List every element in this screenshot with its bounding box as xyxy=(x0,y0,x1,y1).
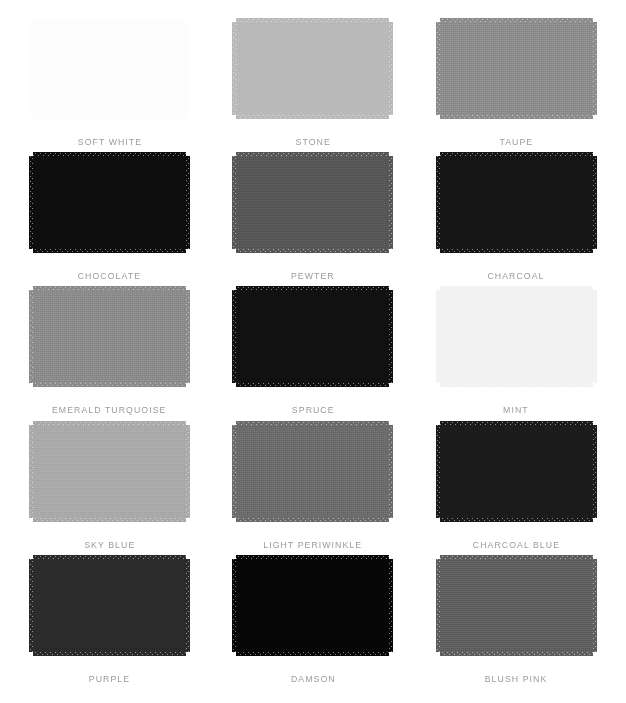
swatch-cell[interactable]: PEWTER xyxy=(211,152,414,286)
swatch-color-chip xyxy=(436,421,597,522)
swatch-cell[interactable]: SKY BLUE xyxy=(8,421,211,555)
swatch-label: TAUPE xyxy=(499,136,533,147)
pinked-edge-zz-top xyxy=(33,286,186,291)
pinked-edge-body xyxy=(440,156,593,249)
swatch-cell[interactable]: BLUSH PINK xyxy=(415,555,618,689)
swatch-cell[interactable]: SOFT WHITE xyxy=(8,18,211,152)
swatch-color-chip xyxy=(436,18,597,119)
pinked-edge-zz-right xyxy=(185,22,190,115)
fabric-swatch[interactable] xyxy=(29,152,190,253)
color-swatch-grid: SOFT WHITESTONETAUPECHOCOLATEPEWTERCHARC… xyxy=(0,0,626,703)
pinked-edge-zz-left xyxy=(436,290,441,383)
swatch-cell[interactable]: CHARCOAL BLUE xyxy=(415,421,618,555)
pinked-edge-body xyxy=(440,290,593,383)
fabric-swatch[interactable] xyxy=(232,152,393,253)
pinked-edge-zz-left xyxy=(29,425,34,518)
pinked-edge-zz-top xyxy=(236,555,389,560)
fabric-swatch[interactable] xyxy=(29,286,190,387)
pinked-edge-zz-left xyxy=(232,290,237,383)
fabric-swatch[interactable] xyxy=(232,18,393,119)
swatch-color-chip xyxy=(436,286,597,387)
pinked-edge-zz-bot xyxy=(440,248,593,253)
swatch-color-chip xyxy=(29,18,190,119)
swatch-label: SKY BLUE xyxy=(84,539,135,550)
pinked-edge-zz-left xyxy=(232,22,237,115)
pinked-edge-zz-right xyxy=(388,22,393,115)
swatch-cell[interactable]: TAUPE xyxy=(415,18,618,152)
pinked-edge-zz-bot xyxy=(33,248,186,253)
pinked-edge-zz-left xyxy=(232,156,237,249)
pinked-edge-zz-left xyxy=(232,425,237,518)
pinked-edge-zz-right xyxy=(185,290,190,383)
swatch-color-chip xyxy=(232,18,393,119)
fabric-swatch[interactable] xyxy=(29,555,190,656)
swatch-label: DAMSON xyxy=(291,673,336,684)
pinked-edge-body xyxy=(236,22,389,115)
swatch-label: SOFT WHITE xyxy=(77,136,141,147)
pinked-edge-zz-bot xyxy=(440,382,593,387)
swatch-cell[interactable]: SPRUCE xyxy=(211,286,414,420)
swatch-color-chip xyxy=(29,421,190,522)
pinked-edge-zz-top xyxy=(440,286,593,291)
swatch-cell[interactable]: EMERALD TURQUOISE xyxy=(8,286,211,420)
pinked-edge-body xyxy=(33,290,186,383)
pinked-edge-zz-top xyxy=(236,152,389,157)
swatch-color-chip xyxy=(436,555,597,656)
pinked-edge-zz-bot xyxy=(236,517,389,522)
fabric-swatch[interactable] xyxy=(436,286,597,387)
fabric-swatch[interactable] xyxy=(436,555,597,656)
pinked-edge-zz-bot xyxy=(440,517,593,522)
pinked-edge-zz-top xyxy=(236,286,389,291)
swatch-label: PEWTER xyxy=(291,270,335,281)
pinked-edge-zz-top xyxy=(440,152,593,157)
swatch-color-chip xyxy=(232,421,393,522)
fabric-swatch[interactable] xyxy=(232,555,393,656)
pinked-edge-zz-bot xyxy=(33,517,186,522)
pinked-edge-zz-right xyxy=(185,559,190,652)
fabric-swatch[interactable] xyxy=(436,152,597,253)
swatch-cell[interactable]: LIGHT PERIWINKLE xyxy=(211,421,414,555)
swatch-cell[interactable]: DAMSON xyxy=(211,555,414,689)
pinked-edge-zz-top xyxy=(440,555,593,560)
pinked-edge-zz-left xyxy=(436,559,441,652)
swatch-label: CHARCOAL xyxy=(488,270,545,281)
fabric-swatch[interactable] xyxy=(232,286,393,387)
pinked-edge-body xyxy=(33,22,186,115)
pinked-edge-zz-bot xyxy=(33,382,186,387)
pinked-edge-body xyxy=(440,425,593,518)
pinked-edge-zz-left xyxy=(232,559,237,652)
swatch-label: SPRUCE xyxy=(292,404,335,415)
pinked-edge-zz-top xyxy=(33,18,186,23)
swatch-cell[interactable]: CHOCOLATE xyxy=(8,152,211,286)
pinked-edge-zz-right xyxy=(592,559,597,652)
swatch-label: MINT xyxy=(504,404,530,415)
swatch-cell[interactable]: MINT xyxy=(415,286,618,420)
pinked-edge-zz-bot xyxy=(236,382,389,387)
swatch-cell[interactable]: PURPLE xyxy=(8,555,211,689)
pinked-edge-zz-top xyxy=(440,421,593,426)
pinked-edge-zz-top xyxy=(236,18,389,23)
pinked-edge-zz-bot xyxy=(236,248,389,253)
fabric-swatch[interactable] xyxy=(436,421,597,522)
swatch-cell[interactable]: STONE xyxy=(211,18,414,152)
swatch-label: CHOCOLATE xyxy=(78,270,141,281)
pinked-edge-zz-bot xyxy=(440,651,593,656)
pinked-edge-zz-left xyxy=(29,22,34,115)
swatch-label: CHARCOAL BLUE xyxy=(473,539,560,550)
pinked-edge-zz-right xyxy=(592,425,597,518)
fabric-swatch[interactable] xyxy=(29,18,190,119)
pinked-edge-body xyxy=(236,559,389,652)
swatch-label: STONE xyxy=(295,136,330,147)
pinked-edge-zz-bot xyxy=(33,114,186,119)
swatch-cell[interactable]: CHARCOAL xyxy=(415,152,618,286)
fabric-swatch[interactable] xyxy=(232,421,393,522)
pinked-edge-zz-left xyxy=(29,156,34,249)
fabric-swatch[interactable] xyxy=(29,421,190,522)
pinked-edge-zz-left xyxy=(436,22,441,115)
swatch-color-chip xyxy=(232,555,393,656)
pinked-edge-body xyxy=(236,425,389,518)
pinked-edge-zz-top xyxy=(440,18,593,23)
fabric-swatch[interactable] xyxy=(436,18,597,119)
pinked-edge-body xyxy=(236,290,389,383)
swatch-color-chip xyxy=(29,152,190,253)
